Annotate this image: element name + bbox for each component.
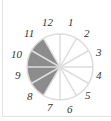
label-12: 12 [42, 16, 54, 28]
label-3: 3 [95, 46, 102, 58]
label-7: 7 [47, 101, 53, 113]
label-8: 8 [27, 90, 33, 102]
label-1: 1 [68, 16, 74, 28]
label-6: 6 [67, 103, 73, 115]
clock-circle-diagram: 12 1 2 3 4 5 6 7 8 9 10 11 [0, 0, 111, 121]
label-10: 10 [11, 48, 23, 60]
label-11: 11 [24, 27, 34, 39]
label-9: 9 [15, 69, 21, 81]
label-5: 5 [85, 89, 91, 101]
label-4: 4 [96, 69, 102, 81]
label-2: 2 [84, 27, 90, 39]
